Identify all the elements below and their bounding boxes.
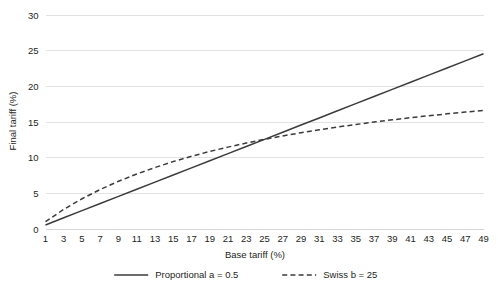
- x-tick-label: 21: [223, 233, 234, 244]
- y-tick-label: 15: [28, 117, 39, 128]
- x-tick-label: 17: [186, 233, 197, 244]
- legend-label: Proportional a = 0.5: [155, 269, 238, 280]
- tariff-comparison-chart: 051015202530 135791113151719212325272931…: [0, 0, 498, 292]
- y-tick-label: 25: [28, 45, 39, 56]
- x-tick-label: 7: [98, 233, 103, 244]
- x-tick-label: 33: [332, 233, 343, 244]
- y-tick-label: 5: [33, 188, 38, 199]
- x-tick-label: 5: [79, 233, 84, 244]
- x-tick-label: 11: [132, 233, 142, 244]
- x-tick-label: 45: [442, 233, 453, 244]
- x-tick-label: 9: [116, 233, 121, 244]
- x-tick-label: 31: [314, 233, 325, 244]
- legend-label: Swiss b = 25: [323, 269, 377, 280]
- x-tick-label: 47: [460, 233, 471, 244]
- x-tick-label: 35: [350, 233, 361, 244]
- x-tick-label: 37: [369, 233, 380, 244]
- x-tick-label: 19: [204, 233, 215, 244]
- x-tick-label: 29: [296, 233, 307, 244]
- x-tick-label: 39: [387, 233, 398, 244]
- x-tick-label: 13: [150, 233, 161, 244]
- x-tick-label: 41: [405, 233, 416, 244]
- x-tick-label: 23: [241, 233, 252, 244]
- chart-canvas: 051015202530 135791113151719212325272931…: [0, 0, 498, 292]
- x-tick-label: 15: [168, 233, 179, 244]
- y-tick-label: 0: [33, 224, 38, 235]
- x-tick-label: 1: [43, 233, 48, 244]
- x-tick-label: 25: [259, 233, 270, 244]
- y-tick-label: 30: [28, 10, 39, 21]
- y-tick-label: 10: [28, 152, 39, 163]
- x-tick-label: 27: [277, 233, 288, 244]
- y-axis-title: Final tariff (%): [7, 92, 18, 151]
- x-tick-label: 43: [423, 233, 434, 244]
- x-tick-label: 49: [478, 233, 489, 244]
- x-axis-title: Base tariff (%): [225, 249, 285, 260]
- y-tick-label: 20: [28, 81, 39, 92]
- x-tick-label: 3: [61, 233, 66, 244]
